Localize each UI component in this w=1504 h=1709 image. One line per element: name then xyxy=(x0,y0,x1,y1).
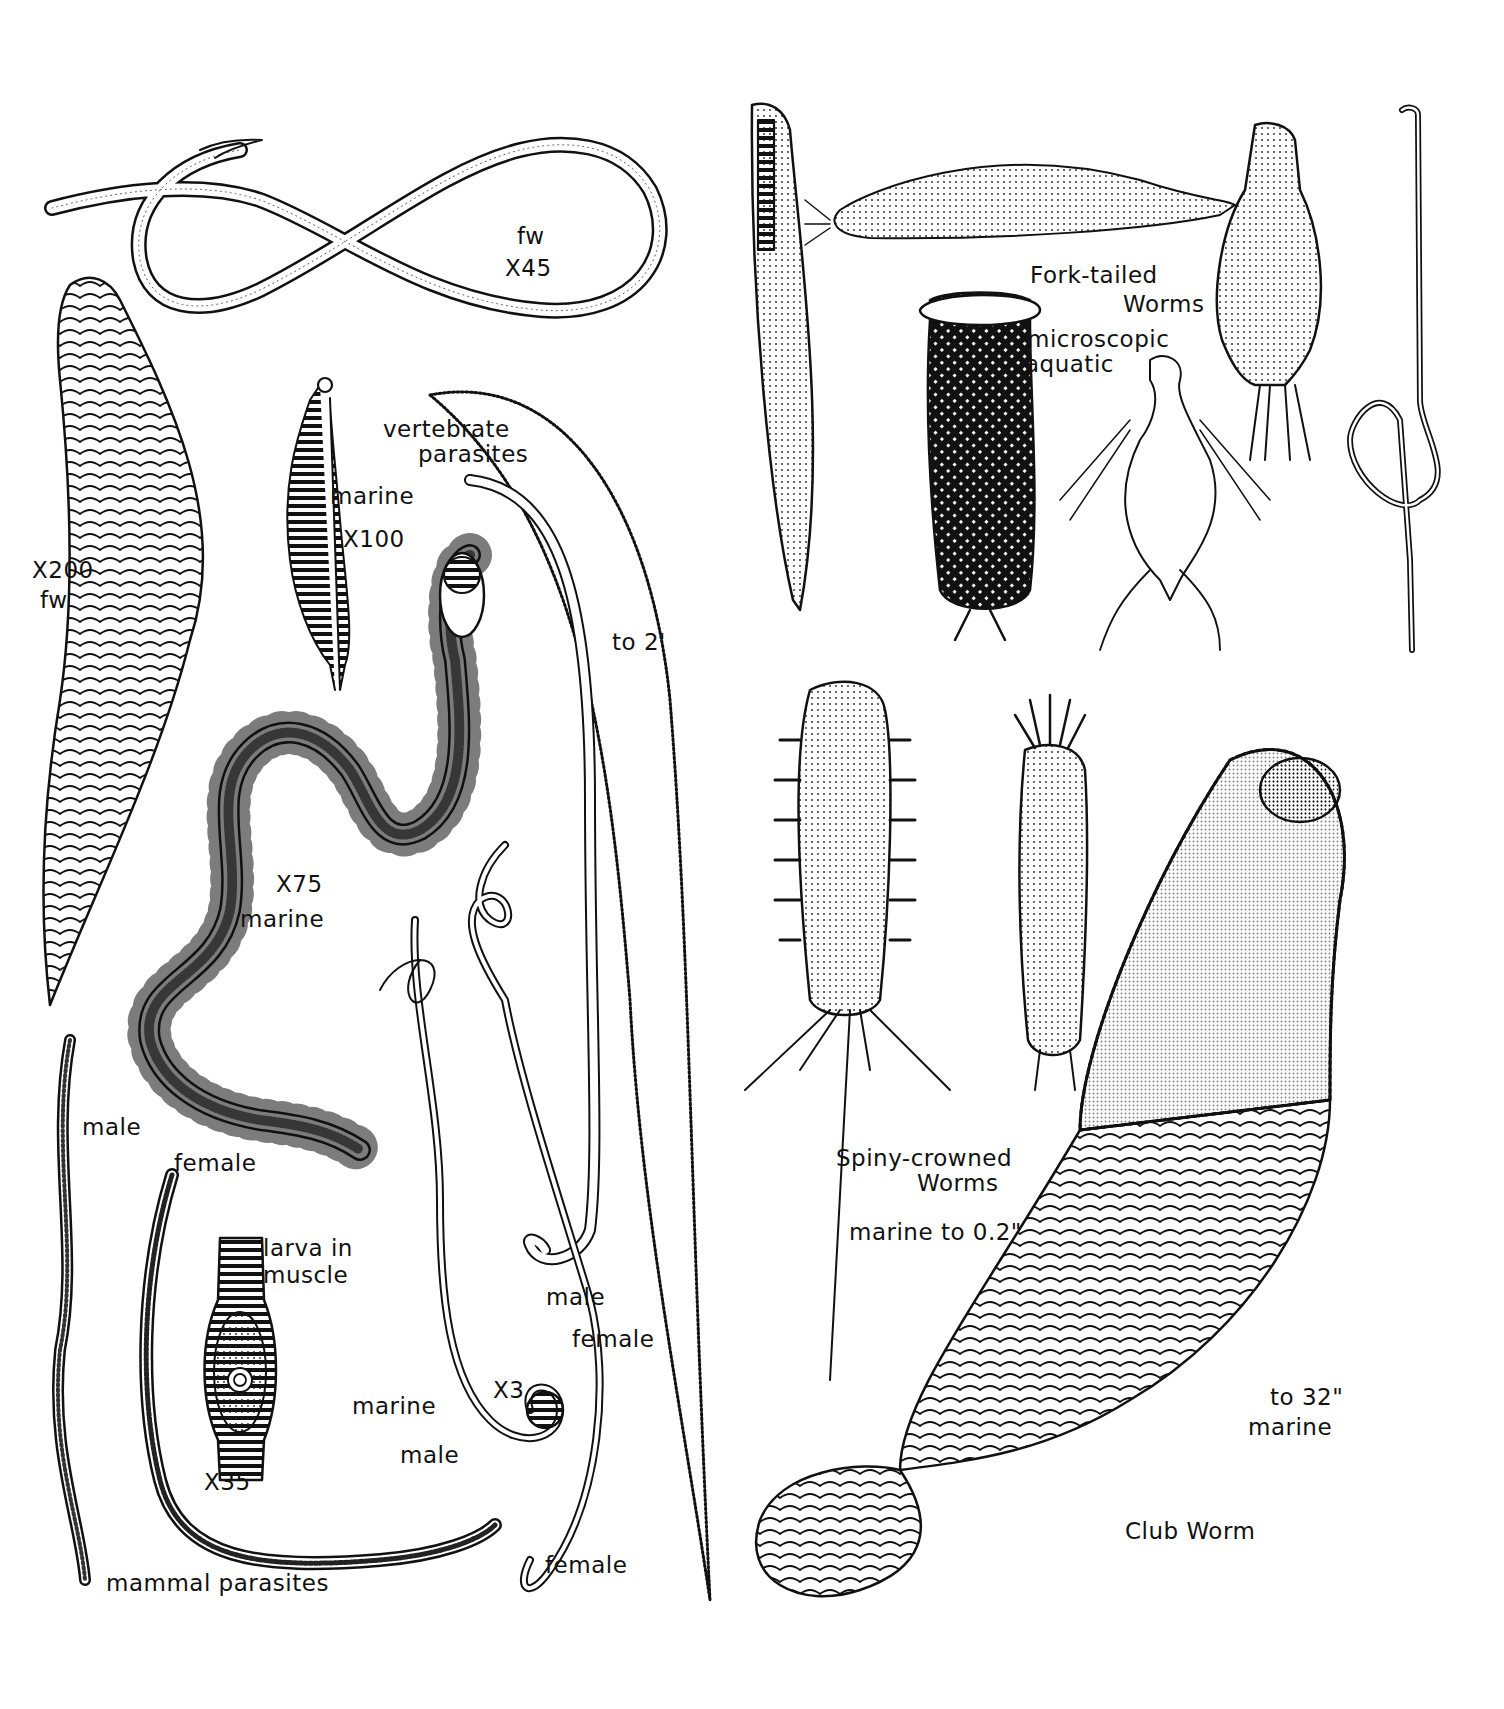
label-fork-tailed-line2: Worms xyxy=(1123,292,1204,317)
fork-tailed-worm-5 xyxy=(1217,123,1321,460)
label-female-mid-bottom: female xyxy=(545,1553,627,1578)
label-vertebrate-parasites-line1: vertebrate xyxy=(383,417,510,442)
label-spiny-crowned-line1: Spiny-crowned xyxy=(836,1146,1012,1171)
label-female-long: female xyxy=(572,1327,654,1352)
label-x35: X35 xyxy=(204,1470,251,1495)
label-microscopic-aquatic-line1: microscopic xyxy=(1027,327,1169,352)
label-male-left: male xyxy=(82,1115,141,1140)
label-fw-x45-line1: fw xyxy=(517,224,545,249)
label-marine-x100-line1: marine xyxy=(330,484,414,509)
label-larva-in-muscle-line1: larva in xyxy=(263,1236,353,1261)
ringed-fw-worm xyxy=(43,278,203,1005)
fork-tailed-worm-4 xyxy=(1060,356,1270,650)
label-spiny-crowned-size: marine to 0.2" xyxy=(849,1220,1022,1245)
fork-tailed-worm-2 xyxy=(805,165,1235,245)
label-mammal-parasites: mammal parasites xyxy=(106,1571,329,1596)
label-to-2ft: to 2' xyxy=(612,630,666,655)
spiny-crowned-worm-2 xyxy=(1015,695,1087,1090)
label-fork-tailed-line1: Fork-tailed xyxy=(1030,263,1158,288)
label-vertebrate-parasites-line2: parasites xyxy=(418,442,528,467)
spiny-crowned-worm-1 xyxy=(745,682,950,1380)
label-club-worm-size-line2: marine xyxy=(1248,1415,1332,1440)
worm-drawings xyxy=(0,0,1504,1709)
fork-tailed-worm-3 xyxy=(920,293,1040,641)
label-microscopic-aquatic-line2: aquatic xyxy=(1025,352,1114,377)
label-x200-fw: fw xyxy=(40,588,68,613)
marine-x3-coiled-worm xyxy=(380,845,600,1588)
label-marine-mid: marine xyxy=(352,1394,436,1419)
label-marine-x100-line2: X100 xyxy=(343,527,405,552)
label-fw-x45-line2: X45 xyxy=(505,256,552,281)
label-x3: X3 xyxy=(493,1378,524,1403)
label-club-worm-size-line1: to 32" xyxy=(1270,1385,1343,1410)
worm-illustration-plate: fw X45 X200 fw marine X100 vertebrate pa… xyxy=(0,0,1504,1709)
label-x75-marine: marine xyxy=(240,907,324,932)
label-x75: X75 xyxy=(276,872,323,897)
label-male-mid: male xyxy=(400,1443,459,1468)
figure-eight-nematode xyxy=(52,140,660,311)
label-x200: X200 xyxy=(32,558,94,583)
marine-x100-worm xyxy=(287,378,349,690)
fork-tailed-worm-6 xyxy=(1350,108,1438,650)
fork-tailed-worm-1 xyxy=(752,104,813,610)
label-male-hook: male xyxy=(546,1285,605,1310)
label-female-left: female xyxy=(174,1151,256,1176)
label-club-worm: Club Worm xyxy=(1125,1519,1255,1544)
label-larva-in-muscle-line2: muscle xyxy=(263,1263,348,1288)
mammal-parasite-male xyxy=(58,1040,85,1580)
label-spiny-crowned-line2: Worms xyxy=(917,1171,998,1196)
